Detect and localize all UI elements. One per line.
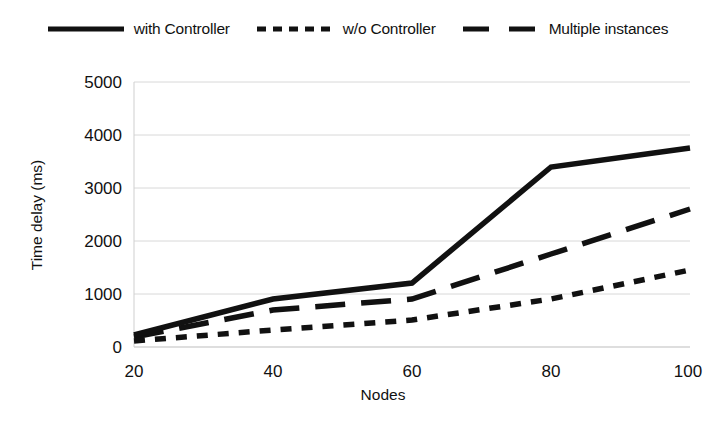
- x-tick-label-20: 20: [125, 362, 144, 381]
- x-tick-label-60: 60: [403, 362, 422, 381]
- y-tick-label-0: 0: [113, 338, 122, 357]
- line-chart: with Controller w/o Controller Multiple …: [0, 0, 715, 423]
- y-tick-label-2000: 2000: [84, 232, 122, 251]
- x-tick-label-80: 80: [542, 362, 561, 381]
- y-tick-label-5000: 5000: [84, 73, 122, 92]
- x-axis-title: Nodes: [361, 386, 406, 403]
- y-tick-label-3000: 3000: [84, 179, 122, 198]
- y-axis-title: Time delay (ms): [28, 160, 45, 271]
- y-tick-label-4000: 4000: [84, 126, 122, 145]
- x-tick-label-100: 100: [674, 362, 702, 381]
- y-tick-label-1000: 1000: [84, 285, 122, 304]
- y-gridlines: [134, 82, 690, 294]
- plot-svg: 5000 4000 3000 2000 1000 0 20 40 60 80 1…: [0, 0, 715, 423]
- plot-area: 5000 4000 3000 2000 1000 0 20 40 60 80 1…: [0, 0, 715, 423]
- x-tick-label-40: 40: [264, 362, 283, 381]
